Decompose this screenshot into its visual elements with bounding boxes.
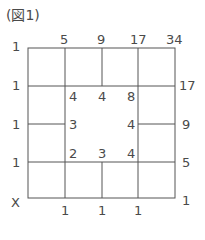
right-label: 1 (182, 194, 190, 207)
inner-number: 2 (69, 147, 77, 160)
top-label: 34 (166, 33, 183, 46)
right-label: 5 (182, 156, 190, 169)
top-label: 5 (60, 33, 68, 46)
bottom-label: 1 (134, 204, 142, 217)
bottom-label: 1 (98, 204, 106, 217)
inner-number: 4 (69, 90, 77, 103)
inner-number: 4 (127, 147, 135, 160)
left-label: 1 (12, 79, 20, 92)
inner-number: 3 (69, 118, 77, 131)
inner-number: 4 (98, 90, 106, 103)
right-label: 9 (182, 118, 190, 131)
inner-number: 4 (127, 118, 135, 131)
left-label-x: X (11, 196, 20, 209)
inner-number: 3 (98, 147, 106, 160)
right-label: 17 (179, 79, 196, 92)
left-label: 1 (12, 156, 20, 169)
top-label: 17 (130, 33, 147, 46)
top-label: 9 (97, 33, 105, 46)
inner-number: 8 (127, 90, 135, 103)
top-label-corner: 1 (12, 40, 20, 53)
bottom-label: 1 (61, 204, 69, 217)
left-label: 1 (12, 118, 20, 131)
